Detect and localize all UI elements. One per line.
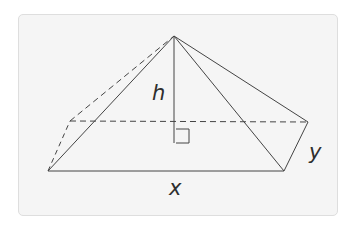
pyramid-diagram: h x y (0, 0, 356, 227)
apex-front-right-edge (174, 36, 284, 171)
hidden-edge-left-back (48, 121, 70, 171)
hidden-edge-back (70, 121, 308, 122)
base-right-edge (284, 122, 308, 171)
length-label: x (168, 176, 182, 200)
right-angle-marker (176, 129, 189, 143)
apex-back-right-edge (174, 36, 308, 122)
width-label: y (308, 140, 322, 164)
height-label: h (152, 81, 165, 105)
hidden-edge-apex-back-left (70, 36, 174, 121)
